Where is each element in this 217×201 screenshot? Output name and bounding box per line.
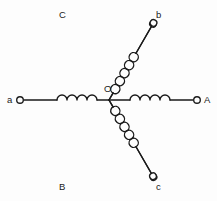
- circuit-diagram: C b a A O B c: [0, 0, 217, 201]
- branch-c: [106, 98, 158, 181]
- wire-B-outer: [136, 26, 152, 53]
- branch-A: [109, 95, 200, 103]
- label-O: O: [104, 84, 111, 94]
- coil-c: [113, 105, 140, 147]
- coil-B: [113, 53, 140, 95]
- terminal-a[interactable]: [17, 97, 24, 104]
- wire-B-inner: [109, 93, 113, 100]
- label-B: B: [59, 182, 65, 192]
- label-C: C: [59, 10, 66, 20]
- label-b: b: [156, 10, 161, 20]
- coil-A: [130, 95, 170, 100]
- label-a: a: [7, 95, 12, 105]
- label-c: c: [156, 182, 161, 192]
- coil-b: [109, 51, 136, 93]
- branch-C: [105, 98, 158, 182]
- wire-c-inner: [109, 100, 113, 107]
- wire-c-outer: [136, 147, 151, 173]
- branch-b: [105, 19, 157, 102]
- diagram-canvas: [0, 0, 217, 201]
- branch-a: [17, 95, 109, 103]
- coil-a: [57, 95, 97, 100]
- coil-C: [109, 107, 136, 149]
- branch-B: [106, 18, 159, 102]
- terminal-A[interactable]: [194, 97, 201, 104]
- label-A: A: [204, 95, 210, 105]
